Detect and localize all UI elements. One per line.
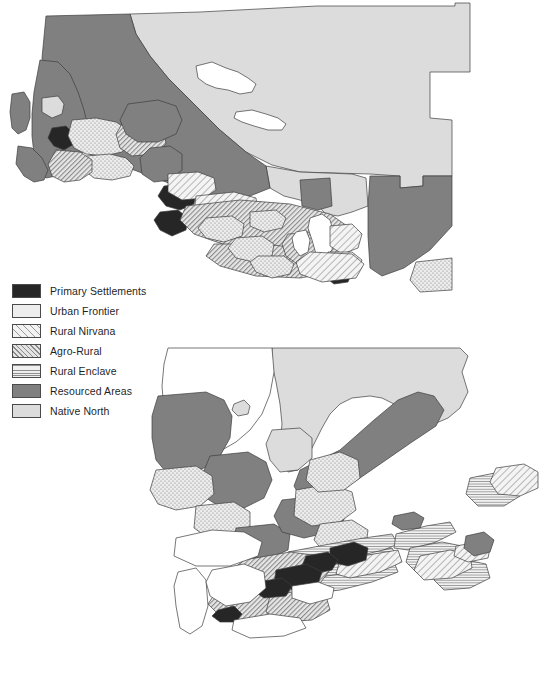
- region-resourced-ontario-nw: [300, 178, 332, 210]
- region-nirvana-interlake: [330, 224, 362, 254]
- map-legend: Primary Settlements Urban Frontier Rural…: [12, 281, 192, 421]
- panel-eastern-canada: [150, 348, 538, 638]
- legend-swatch-agro-rural: [12, 344, 41, 358]
- legend-item-agro-rural[interactable]: Agro-Rural: [12, 341, 192, 361]
- legend-swatch-urban-frontier: [12, 304, 41, 318]
- legend-swatch-rural-enclave: [12, 364, 41, 378]
- panel-western-northern-canada: [10, 3, 470, 292]
- region-urban-top-se: [410, 258, 452, 292]
- region-nirvana-bottom-arc: [296, 252, 364, 282]
- figure-caption: [4, 667, 524, 674]
- map-figure: Primary Settlements Urban Frontier Rural…: [0, 0, 558, 674]
- legend-item-primary-settlements[interactable]: Primary Settlements: [12, 281, 192, 301]
- legend-label-rural-nirvana: Rural Nirvana: [50, 325, 116, 337]
- legend-label-primary-settlements: Primary Settlements: [50, 285, 146, 297]
- legend-swatch-primary-settlements: [12, 284, 41, 298]
- legend-item-resourced-areas[interactable]: Resourced Areas: [12, 381, 192, 401]
- legend-item-native-north[interactable]: Native North: [12, 401, 192, 421]
- legend-label-agro-rural: Agro-Rural: [50, 345, 102, 357]
- region-agro-bc-peace: [48, 150, 92, 182]
- legend-swatch-native-north: [12, 404, 41, 418]
- legend-label-resourced-areas: Resourced Areas: [50, 385, 132, 397]
- lake-michigan: [174, 568, 208, 634]
- region-nirvana-nfld-e: [490, 464, 538, 496]
- lake-st-john: [392, 512, 424, 530]
- legend-label-native-north: Native North: [50, 405, 110, 417]
- region-urban-bottom-sw: [150, 466, 214, 510]
- legend-item-rural-enclave[interactable]: Rural Enclave: [12, 361, 192, 381]
- legend-label-urban-frontier: Urban Frontier: [50, 305, 119, 317]
- legend-item-urban-frontier[interactable]: Urban Frontier: [12, 301, 192, 321]
- legend-item-rural-nirvana[interactable]: Rural Nirvana: [12, 321, 192, 341]
- region-resourced-bc-islands: [10, 92, 30, 134]
- legend-swatch-rural-nirvana: [12, 324, 41, 338]
- region-native-north-james-bay: [266, 428, 312, 472]
- legend-label-rural-enclave: Rural Enclave: [50, 365, 117, 377]
- region-urban-quebec-n: [306, 452, 360, 492]
- region-resourced-alberta-north: [120, 100, 182, 142]
- legend-swatch-resourced-areas: [12, 384, 41, 398]
